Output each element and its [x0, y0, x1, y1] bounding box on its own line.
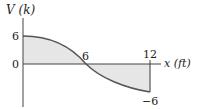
x-axis-label: x (ft) [164, 58, 191, 69]
y-tick-0: 0 [12, 59, 19, 70]
y-tick-neg6: −6 [142, 96, 158, 107]
x-tick-12-label: 12 [143, 49, 157, 60]
y-axis-label: V (k) [6, 4, 35, 16]
x-tick-6: 6 [82, 51, 89, 62]
y-tick-6: 6 [12, 31, 19, 42]
